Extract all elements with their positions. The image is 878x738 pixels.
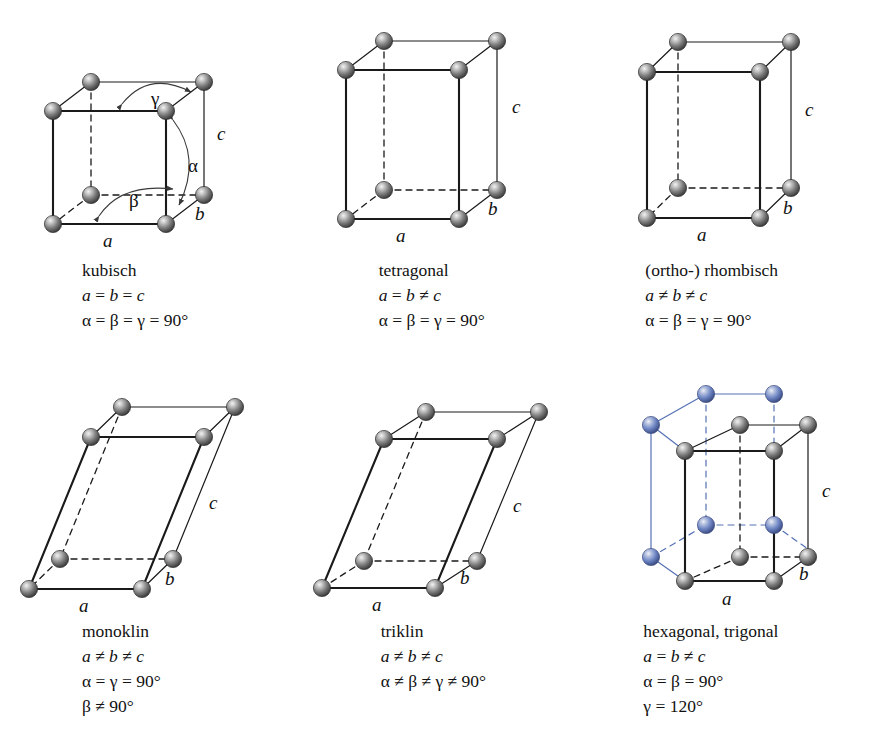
axis-label-a: a <box>697 224 707 245</box>
relation-line: α = γ = 90° <box>82 669 293 694</box>
svg-monoklin: a b c <box>21 369 271 619</box>
atom-group-secondary <box>642 385 782 565</box>
crystal-cell-kubisch: a b c γ α β kubisch a = b = c α = β = γ … <box>0 0 293 369</box>
system-name: triklin <box>381 619 586 644</box>
svg-hexagonal: a b c <box>607 369 857 619</box>
relation-line: a ≠ b ≠ c <box>381 644 586 669</box>
caption-hexagonal: hexagonal, trigonal a = b ≠ c α = β = 90… <box>585 619 878 718</box>
caption-tetragonal: tetragonal a = b ≠ c α = β = γ = 90° <box>293 258 586 333</box>
axis-label-a: a <box>372 594 382 615</box>
atom-group <box>676 416 816 589</box>
axis-label-a: a <box>79 595 89 616</box>
unit-cell-diagram-triklin: a b c <box>293 369 586 619</box>
caption-rhombisch: (ortho-) rhombisch a ≠ b ≠ c α = β = γ =… <box>585 258 878 333</box>
unit-cell-diagram-tetragonal: a b c <box>293 0 586 258</box>
axis-label-b: b <box>783 197 793 218</box>
axis-label-c: c <box>805 99 814 120</box>
relation-line: α = β = γ = 90° <box>82 308 293 333</box>
axis-label-c: c <box>513 495 522 516</box>
axis-label-c: c <box>217 123 226 144</box>
caption-monoklin: monoklin a ≠ b ≠ c α = γ = 90° β ≠ 90° <box>0 619 293 718</box>
svg-kubisch: a b c γ α β <box>21 0 271 250</box>
relation-line: α ≠ β ≠ γ ≠ 90° <box>381 669 586 694</box>
unit-cell-diagram-hexagonal: a b c <box>585 369 878 619</box>
axis-label-a: a <box>396 225 406 246</box>
axis-label-c: c <box>822 480 831 501</box>
relation-line: β ≠ 90° <box>82 694 293 719</box>
caption-triklin: triklin a ≠ b ≠ c α ≠ β ≠ γ ≠ 90° <box>293 619 586 694</box>
svg-tetragonal: a b c <box>314 0 564 250</box>
axis-label-c: c <box>209 492 218 513</box>
crystal-cell-hexagonal: a b c hexagonal, trigonal a = b ≠ c α = … <box>585 369 878 738</box>
system-name: tetragonal <box>379 258 586 283</box>
axis-label-b: b <box>460 567 470 588</box>
crystal-cell-rhombisch: a b c (ortho-) rhombisch a ≠ b ≠ c α = β… <box>585 0 878 369</box>
svg-triklin: a b c <box>314 369 564 619</box>
system-name: (ortho-) rhombisch <box>645 258 878 283</box>
crystal-systems-figure: a b c γ α β kubisch a = b = c α = β = γ … <box>0 0 878 738</box>
crystal-cell-triklin: a b c triklin a ≠ b ≠ c α ≠ β ≠ γ ≠ 90° <box>293 369 586 738</box>
axis-label-b: b <box>799 563 809 584</box>
relation-line: α = β = γ = 90° <box>379 308 586 333</box>
relation-line: α = β = 90° <box>643 669 878 694</box>
crystal-cell-monoklin: a b c monoklin a ≠ b ≠ c α = γ = 90° β ≠… <box>0 369 293 738</box>
relation-line: α = β = γ = 90° <box>645 308 878 333</box>
relation-line: a ≠ b ≠ c <box>82 644 293 669</box>
axis-label-a: a <box>722 588 732 609</box>
system-name: hexagonal, trigonal <box>643 619 878 644</box>
unit-cell-diagram-monoklin: a b c <box>0 369 293 619</box>
angle-label-alpha: α <box>188 155 198 176</box>
relation-line: a ≠ b ≠ c <box>645 283 878 308</box>
svg-rhombisch: a b c <box>607 0 857 250</box>
unit-cell-diagram-kubisch: a b c γ α β <box>0 0 293 258</box>
angle-label-gamma: γ <box>150 88 159 109</box>
axis-label-a: a <box>103 230 113 251</box>
caption-kubisch: kubisch a = b = c α = β = γ = 90° <box>0 258 293 333</box>
axis-label-b: b <box>195 203 205 224</box>
axis-label-c: c <box>512 96 521 117</box>
atom-group <box>638 33 799 226</box>
axis-label-b: b <box>165 568 175 589</box>
relation-line: γ = 120° <box>643 694 878 719</box>
angle-label-beta: β <box>129 190 139 211</box>
atom-group <box>337 32 505 227</box>
relation-line: a = b ≠ c <box>643 644 878 669</box>
system-name: monoklin <box>82 619 293 644</box>
relation-line: a = b ≠ c <box>379 283 586 308</box>
system-name: kubisch <box>82 258 293 283</box>
relation-line: a = b = c <box>82 283 293 308</box>
axis-label-b: b <box>488 198 498 219</box>
crystal-cell-tetragonal: a b c tetragonal a = b ≠ c α = β = γ = 9… <box>293 0 586 369</box>
unit-cell-diagram-rhombisch: a b c <box>585 0 878 258</box>
